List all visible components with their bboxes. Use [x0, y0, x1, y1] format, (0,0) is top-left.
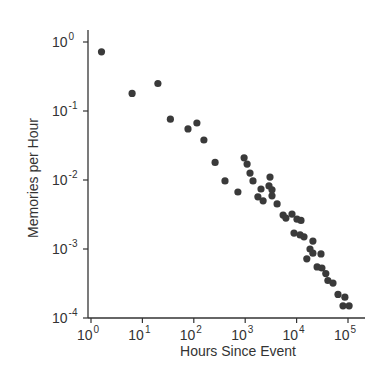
data-point — [234, 188, 241, 195]
data-point — [322, 270, 329, 277]
data-point — [265, 182, 272, 189]
data-point — [167, 116, 174, 123]
data-point — [154, 80, 161, 87]
data-point — [317, 250, 324, 257]
data-point — [309, 250, 316, 257]
data-point — [334, 291, 341, 298]
y-axis-ticks: 10010-110-210-310-4 — [52, 31, 88, 326]
data-point — [212, 159, 219, 166]
data-point — [193, 119, 200, 126]
x-tick-label: 103 — [231, 324, 254, 343]
x-axis-ticks: 100101102103104105 — [77, 318, 357, 343]
x-tick-label: 105 — [334, 324, 357, 343]
data-point — [249, 177, 256, 184]
data-point — [98, 48, 105, 55]
y-tick-label: 10-3 — [52, 238, 78, 257]
data-point — [266, 174, 273, 181]
y-tick-label: 10-4 — [52, 307, 78, 326]
data-point — [200, 136, 207, 143]
data-point — [241, 154, 248, 161]
x-axis-label: Hours Since Event — [180, 343, 296, 359]
y-tick-label: 100 — [52, 31, 75, 50]
data-point — [221, 177, 228, 184]
data-point — [244, 161, 251, 168]
data-point — [260, 197, 267, 204]
data-point — [309, 238, 316, 245]
data-points — [98, 48, 353, 309]
data-point — [290, 230, 297, 237]
x-tick-label: 104 — [283, 324, 306, 343]
x-tick-label: 101 — [128, 324, 151, 343]
data-point — [257, 185, 264, 192]
data-point — [268, 192, 275, 199]
data-point — [184, 125, 191, 132]
scatter-chart: 100101102103104105 10010-110-210-310-4 H… — [0, 0, 389, 382]
data-point — [282, 215, 289, 222]
data-point — [329, 280, 336, 287]
data-point — [341, 294, 348, 301]
y-axis-label: Memories per Hour — [25, 118, 41, 238]
data-point — [346, 302, 353, 309]
data-point — [246, 170, 253, 177]
x-tick-label: 102 — [180, 324, 203, 343]
x-tick-label: 100 — [77, 324, 100, 343]
data-point — [297, 217, 304, 224]
data-point — [303, 255, 310, 262]
y-tick-label: 10-1 — [52, 100, 78, 119]
data-point — [300, 233, 307, 240]
data-point — [129, 90, 136, 97]
y-tick-label: 10-2 — [52, 169, 78, 188]
data-point — [274, 200, 281, 207]
